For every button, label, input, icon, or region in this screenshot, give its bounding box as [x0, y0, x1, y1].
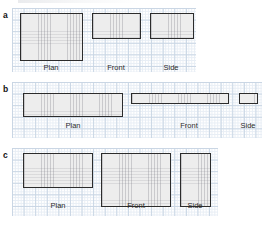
panel-b-side-shape — [239, 93, 258, 104]
orthographic-projection-figure: a Plan Front Side b Plan Front Side c Pl… — [0, 0, 265, 226]
panel-a-front-shape — [92, 13, 141, 39]
panel-b-plan-shape — [23, 93, 123, 117]
panel-c-plan-shape — [23, 153, 93, 188]
panel-a-side-shape — [150, 13, 194, 39]
panel-c-plan-label: Plan — [50, 202, 65, 210]
panel-b-front-label: Front — [180, 122, 198, 130]
panel-letter-c: c — [3, 151, 8, 160]
panel-b-front-shape — [131, 93, 229, 104]
panel-a-plan-label: Plan — [43, 64, 58, 72]
panel-a-plan-shape — [20, 13, 83, 61]
panel-a-side-label: Side — [163, 64, 178, 72]
panel-c-side-label: Side — [187, 202, 202, 210]
panel-b-plan-label: Plan — [65, 122, 80, 130]
clipped-header-artifact — [18, 0, 138, 3]
panel-a-front-label: Front — [107, 64, 125, 72]
panel-c-side-shape — [180, 153, 211, 207]
panel-b-side-label: Side — [240, 122, 255, 130]
panel-letter-b: b — [3, 85, 8, 94]
panel-letter-a: a — [3, 11, 8, 20]
panel-c-front-shape — [101, 153, 171, 207]
panel-c-front-label: Front — [127, 202, 145, 210]
